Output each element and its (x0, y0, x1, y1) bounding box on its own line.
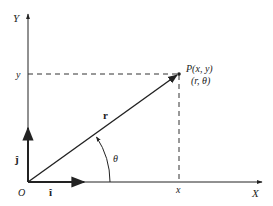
y-axis-label: Y (13, 12, 21, 24)
y-value-label: y (15, 69, 21, 80)
unit-vector-j-label: ĵ (14, 153, 19, 165)
vector-r-label: r (103, 109, 108, 121)
x-value-label: x (175, 184, 181, 195)
angle-theta-arc (97, 137, 111, 182)
origin-label: O (18, 187, 25, 198)
point-p-dot (177, 72, 181, 76)
unit-vector-i-label: î (48, 186, 53, 198)
x-axis-label: X (251, 187, 260, 199)
angle-theta-label: θ (113, 153, 118, 164)
point-polar-label: (r, θ) (191, 75, 211, 87)
position-vector-r (28, 75, 177, 182)
polar-coordinates-diagram: Y X O y x P(x, y) (r, θ) r ĵ î θ (0, 0, 273, 206)
point-cartesian-label: P(x, y) (185, 63, 213, 75)
